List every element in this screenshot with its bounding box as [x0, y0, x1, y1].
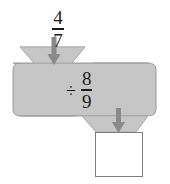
input-numerator: 4 [52, 8, 64, 27]
output-answer-box[interactable] [95, 132, 143, 177]
input-fraction: 4 7 [44, 8, 72, 50]
division-symbol-icon: ÷ [66, 82, 76, 100]
input-denominator: 7 [52, 31, 64, 50]
operation-label: ÷ 8 9 [66, 69, 92, 111]
function-machine-diagram: 4 7 ÷ 8 9 [0, 0, 170, 184]
fraction-8-over-9: 8 9 [81, 69, 93, 111]
operand-numerator: 8 [81, 69, 93, 88]
operand-denominator: 9 [81, 92, 93, 111]
fraction-4-over-7: 4 7 [52, 8, 64, 50]
